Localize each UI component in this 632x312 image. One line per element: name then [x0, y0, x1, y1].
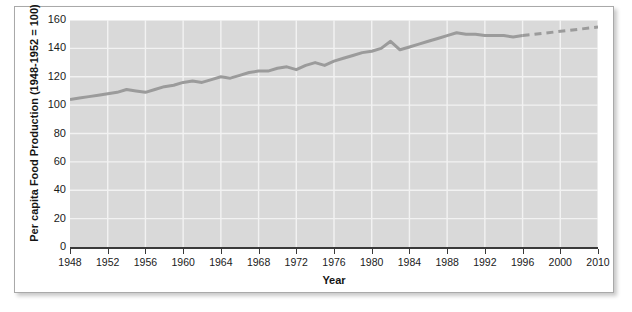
- x-axis-tick: [334, 249, 335, 254]
- x-axis-tick: [70, 249, 71, 254]
- x-axis-tick: [372, 249, 373, 254]
- y-axis-tick-label: 80: [26, 128, 66, 139]
- x-axis-tick: [523, 249, 524, 254]
- data-series-layer: [70, 20, 598, 247]
- x-axis-tick: [259, 249, 260, 254]
- x-axis-title: Year: [70, 274, 598, 286]
- y-axis-tick-label: 160: [26, 14, 66, 25]
- x-axis-tick: [145, 249, 146, 254]
- y-axis-tick-label: 20: [26, 213, 66, 224]
- y-axis-tick-label: 40: [26, 184, 66, 195]
- y-axis-tick-label: 0: [26, 241, 66, 252]
- x-axis-tick: [560, 249, 561, 254]
- x-axis-tick: [108, 249, 109, 254]
- x-axis-tick: [409, 249, 410, 254]
- y-axis-tick-label: 60: [26, 156, 66, 167]
- x-axis-tick: [296, 249, 297, 254]
- series-line: [523, 27, 598, 36]
- x-axis-tick: [221, 249, 222, 254]
- plot-area: [70, 20, 598, 247]
- series-line: [70, 33, 523, 100]
- y-axis-tick-label: 100: [26, 99, 66, 110]
- x-axis-tick: [598, 249, 599, 254]
- x-axis-tick: [183, 249, 184, 254]
- y-axis-tick-label: 140: [26, 42, 66, 53]
- x-axis-tick-label: 2010: [576, 256, 620, 268]
- x-axis-tick: [447, 249, 448, 254]
- x-axis-tick: [485, 249, 486, 254]
- y-axis-tick-label: 120: [26, 71, 66, 82]
- chart-figure: Per capita Food Production (1948-1952 = …: [0, 0, 632, 312]
